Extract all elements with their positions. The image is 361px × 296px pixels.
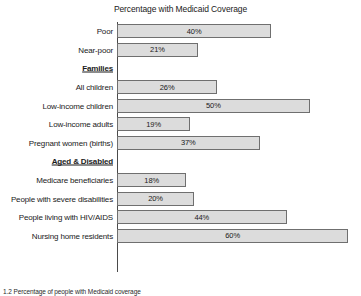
bar: 50% bbox=[117, 99, 310, 113]
bar: 40% bbox=[117, 24, 271, 38]
section-header-row: Families bbox=[0, 59, 361, 78]
bar: 37% bbox=[117, 136, 260, 150]
bar: 60% bbox=[117, 229, 348, 243]
bar-value-label: 44% bbox=[118, 211, 286, 223]
chart-title: Percentage with Medicaid Coverage bbox=[0, 4, 361, 14]
row-label: Low-income children bbox=[0, 101, 113, 110]
bar-row: Low-income children50% bbox=[0, 96, 361, 115]
bar-value-label: 60% bbox=[118, 230, 347, 242]
bar-value-label: 37% bbox=[118, 137, 259, 149]
bar-row: All children26% bbox=[0, 78, 361, 97]
row-label: People with severe disabilities bbox=[0, 194, 113, 203]
row-label: Aged & Disabled bbox=[0, 157, 113, 166]
bar-value-label: 18% bbox=[118, 174, 185, 186]
section-header-row: Aged & Disabled bbox=[0, 152, 361, 171]
row-label: Nursing home residents bbox=[0, 231, 113, 240]
bar-row: Medicare beneficiaries18% bbox=[0, 171, 361, 190]
bar: 20% bbox=[117, 192, 194, 206]
row-label: All children bbox=[0, 83, 113, 92]
row-label: People living with HIV/AIDS bbox=[0, 213, 113, 222]
row-label: Low-income adults bbox=[0, 120, 113, 129]
row-label: Pregnant women (births) bbox=[0, 138, 113, 147]
bar-row: Nursing home residents60% bbox=[0, 227, 361, 246]
bar: 19% bbox=[117, 117, 190, 131]
plot-area: Poor40%Near-poor21%FamiliesAll children2… bbox=[0, 22, 361, 274]
bar-value-label: 21% bbox=[118, 44, 197, 56]
bar-row: People living with HIV/AIDS44% bbox=[0, 208, 361, 227]
row-label: Poor bbox=[0, 27, 113, 36]
bar: 18% bbox=[117, 173, 186, 187]
bar-row: Low-income adults19% bbox=[0, 115, 361, 134]
bar-row: Poor40% bbox=[0, 22, 361, 41]
row-label: Medicare beneficiaries bbox=[0, 176, 113, 185]
bar-value-label: 20% bbox=[118, 193, 193, 205]
bar-value-label: 40% bbox=[118, 25, 270, 37]
bar-row: Near-poor21% bbox=[0, 41, 361, 60]
row-label: Near-poor bbox=[0, 45, 113, 54]
bar-row: Pregnant women (births)37% bbox=[0, 134, 361, 153]
bar: 26% bbox=[117, 80, 217, 94]
bar-value-label: 26% bbox=[118, 81, 216, 93]
row-label: Families bbox=[0, 64, 113, 73]
figure-caption: 1.2 Percentage of people with Medicaid c… bbox=[3, 288, 358, 296]
bar-value-label: 19% bbox=[118, 118, 189, 130]
bar-row: People with severe disabilities20% bbox=[0, 189, 361, 208]
bar: 21% bbox=[117, 43, 198, 57]
bar: 44% bbox=[117, 210, 287, 224]
bar-value-label: 50% bbox=[118, 100, 309, 112]
